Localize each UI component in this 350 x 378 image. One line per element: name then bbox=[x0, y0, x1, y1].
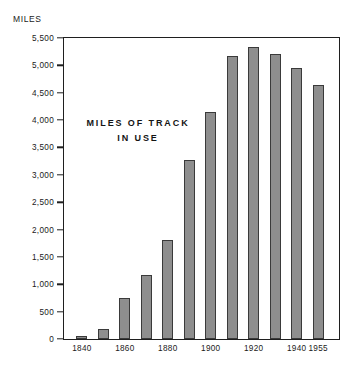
y-tick-label: 1,500 bbox=[32, 252, 54, 261]
annotation-line-2: IN USE bbox=[78, 131, 198, 146]
bar bbox=[248, 47, 259, 339]
x-tick-label: 1860 bbox=[115, 344, 134, 353]
y-axis-title: MILES bbox=[13, 14, 42, 24]
x-tick-label: 1900 bbox=[201, 344, 220, 353]
bar bbox=[98, 329, 109, 339]
y-tick-label: 4,000 bbox=[32, 116, 54, 125]
x-tick-label: 1955 bbox=[308, 344, 327, 353]
y-tick-label: 3,500 bbox=[32, 143, 54, 152]
y-tick-label: 500 bbox=[39, 307, 54, 316]
y-tick-label: 3,000 bbox=[32, 170, 54, 179]
chart-annotation: MILES OF TRACK IN USE bbox=[78, 116, 198, 146]
bar bbox=[313, 85, 324, 339]
bar bbox=[119, 298, 130, 339]
bar bbox=[162, 240, 173, 339]
bar bbox=[141, 275, 152, 339]
y-tick-label: 1,000 bbox=[32, 280, 54, 289]
x-tick-label: 1940 bbox=[287, 344, 306, 353]
bar-chart: MILES 5,5005,0004,5004,0003,5003,0002,50… bbox=[0, 0, 350, 378]
bar bbox=[76, 336, 87, 339]
y-tick-label: 4,500 bbox=[32, 88, 54, 97]
y-tick-label: 2,500 bbox=[32, 198, 54, 207]
annotation-line-1: MILES OF TRACK bbox=[86, 118, 189, 128]
x-tick-label: 1840 bbox=[72, 344, 91, 353]
y-tick-label: 0 bbox=[49, 335, 54, 344]
bar bbox=[227, 56, 238, 339]
bar bbox=[291, 68, 302, 339]
x-tick-label: 1880 bbox=[158, 344, 177, 353]
bar bbox=[184, 160, 195, 340]
y-tick-label: 2,000 bbox=[32, 225, 54, 234]
plot-area bbox=[63, 38, 339, 339]
bar bbox=[270, 54, 281, 339]
x-tick-label: 1920 bbox=[244, 344, 263, 353]
y-tick-label: 5,000 bbox=[32, 61, 54, 70]
y-tick-label: 5,500 bbox=[32, 34, 54, 43]
bar bbox=[205, 112, 216, 339]
